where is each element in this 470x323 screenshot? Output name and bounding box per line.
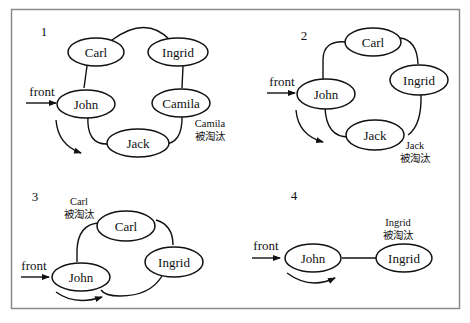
node-label: Carl bbox=[362, 35, 385, 50]
eliminated-text: 被淘汰 bbox=[64, 208, 95, 220]
node-label: Camila bbox=[162, 96, 200, 111]
step-number: 4 bbox=[291, 188, 298, 203]
step-number: 3 bbox=[32, 189, 39, 204]
node-label: Carl bbox=[115, 219, 138, 234]
eliminated-name: Camila bbox=[195, 118, 226, 129]
front-label: front bbox=[253, 238, 279, 253]
step-number: 2 bbox=[301, 28, 308, 43]
node-label: Ingrid bbox=[388, 251, 420, 266]
node-label: Carl bbox=[85, 45, 108, 60]
node-label: John bbox=[74, 97, 99, 112]
node-label: John bbox=[314, 87, 339, 102]
eliminated-name: Carl bbox=[70, 196, 88, 207]
node-label: Jack bbox=[363, 128, 387, 143]
node-label: Ingrid bbox=[158, 255, 190, 270]
node-label: Ingrid bbox=[403, 73, 435, 88]
node-label: Ingrid bbox=[162, 45, 194, 60]
node-label: John bbox=[69, 270, 94, 285]
node-label: Jack bbox=[126, 136, 150, 151]
josephus-diagram: 1 front Carl Ingrid John Camila Jack Cam… bbox=[0, 0, 470, 323]
front-label: front bbox=[269, 74, 295, 89]
eliminated-text: 被淘汰 bbox=[400, 152, 431, 164]
front-label: front bbox=[21, 258, 47, 273]
node-label: John bbox=[301, 251, 326, 266]
eliminated-text: 被淘汰 bbox=[383, 229, 414, 241]
eliminated-name: Jack bbox=[406, 140, 425, 151]
eliminated-name: Ingrid bbox=[385, 217, 411, 228]
step-number: 1 bbox=[41, 24, 48, 39]
eliminated-text: 被淘汰 bbox=[195, 130, 226, 142]
front-label: front bbox=[29, 84, 55, 99]
